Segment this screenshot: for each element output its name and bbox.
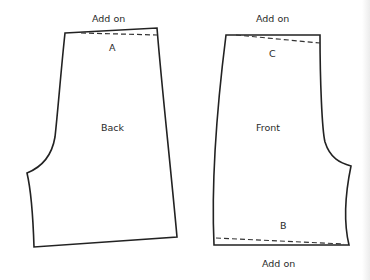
front-piece-outline	[213, 35, 351, 245]
front-top-add-on-label: Add on	[256, 13, 289, 24]
back-piece-outline	[27, 28, 177, 247]
front-bottom-add-on-label: Add on	[262, 258, 295, 269]
back-marker-a: A	[109, 42, 116, 53]
front-pattern-piece: Add on C Front B Add on	[213, 13, 351, 269]
front-piece-title: Front	[256, 122, 280, 133]
back-piece-title: Back	[101, 122, 125, 133]
back-addon-dashed-line	[81, 33, 157, 35]
front-bottom-addon-dashed-line	[216, 238, 344, 244]
front-marker-b: B	[280, 220, 287, 231]
pattern-diagram: Add on A Back Add on C Front B Add on	[0, 0, 370, 280]
front-top-addon-dashed-line	[236, 35, 320, 43]
back-pattern-piece: Add on A Back	[27, 13, 177, 247]
back-add-on-label: Add on	[92, 13, 125, 24]
front-marker-c: C	[269, 48, 276, 59]
